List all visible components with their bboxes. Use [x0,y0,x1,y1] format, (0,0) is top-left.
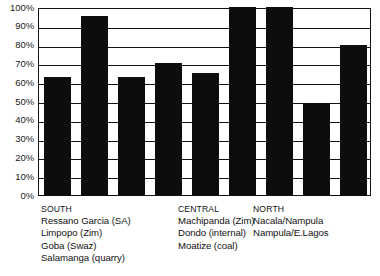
label-group-title: SOUTH [41,203,131,215]
y-axis-tick-label: 30% [0,134,34,144]
label-group-item: Limpopo (Zim) [41,227,131,239]
label-group-item: Nampula/E.Lagos [253,227,329,239]
bars [39,9,370,195]
label-group-item: Goba (Swaz) [41,240,131,252]
label-group-title: NORTH [253,203,329,215]
label-group-item: Moatize (coal) [178,240,255,252]
y-axis-tick-label: 10% [0,172,34,182]
y-axis-tick-label: 20% [0,153,34,163]
y-axis: 100%90%80%70%60%50%40%30%20%10%0% [0,0,34,205]
y-axis-tick-label: 100% [0,3,34,13]
bar-chart: 100%90%80%70%60%50%40%30%20%10%0% SOUTHR… [0,0,380,276]
bar [118,77,145,195]
y-axis-tick-label: 50% [0,97,34,107]
label-group-south: SOUTHRessano Garcia (SA)Limpopo (Zim)Gob… [41,203,131,264]
bar [266,7,293,195]
y-axis-tick-label: 60% [0,78,34,88]
bar [340,45,367,195]
label-group-item: Dondo (internal) [178,227,255,239]
plot-area [38,8,371,196]
y-axis-tick-label: 40% [0,115,34,125]
y-axis-tick-label: 0% [0,191,34,201]
label-group-item: Ressano Garcia (SA) [41,215,131,227]
label-group-central: CENTRALMachipanda (Zim)Dondo (internal)M… [178,203,255,252]
label-group-title: CENTRAL [178,203,255,215]
label-group-item: Salamanga (quarry) [41,252,131,264]
category-label-groups: SOUTHRessano Garcia (SA)Limpopo (Zim)Gob… [0,203,380,276]
bar [192,73,219,195]
bar [229,7,256,195]
label-group-item: Nacala/Nampula [253,215,329,227]
bar [81,16,108,195]
label-group-north: NORTHNacala/NampulaNampula/E.Lagos [253,203,329,240]
y-axis-tick-label: 80% [0,40,34,50]
y-axis-tick-label: 90% [0,21,34,31]
y-axis-tick-label: 70% [0,59,34,69]
bar [155,63,182,195]
bar [303,103,330,195]
label-group-item: Machipanda (Zim) [178,215,255,227]
bar [44,77,71,195]
